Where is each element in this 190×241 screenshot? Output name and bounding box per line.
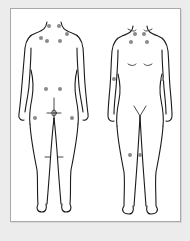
- tender-point-back-trochanter-right: [70, 116, 74, 120]
- tender-point-front-low-cervical-left: [133, 32, 137, 36]
- tender-point-front-second-rib-right: [145, 40, 149, 44]
- tender-point-back-trapezius-left: [39, 36, 43, 40]
- tender-point-back-supraspinatus-left: [45, 39, 49, 43]
- tender-point-front-knee-right: [138, 153, 142, 157]
- front-view-figure: [108, 26, 172, 214]
- tender-point-back-gluteal-right: [58, 87, 62, 91]
- body-map: [0, 0, 190, 241]
- tender-point-back-gluteal-left: [44, 87, 48, 91]
- tender-point-back-trapezius-right: [65, 32, 69, 36]
- tender-point-back-trochanter-left: [33, 116, 37, 120]
- back-view-figure: [19, 22, 88, 212]
- tender-point-front-second-rib-left: [129, 40, 133, 44]
- tender-point-back-supraspinatus-right: [58, 39, 62, 43]
- tender-point-back-occiput-left: [47, 24, 51, 28]
- tender-point-front-knee-left: [128, 153, 132, 157]
- tender-point-front-lateral-epicondyle-right: [160, 77, 164, 81]
- tender-point-front-lateral-epicondyle-left: [112, 77, 116, 81]
- tender-point-front-low-cervical-right: [142, 32, 146, 36]
- tender-point-back-occiput-right: [57, 24, 61, 28]
